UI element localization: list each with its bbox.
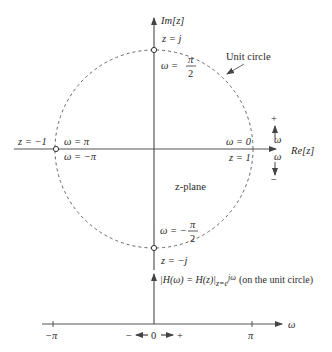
freq-direction-minus: − xyxy=(126,330,132,341)
label-omega-pi-over-2-den: 2 xyxy=(188,68,193,79)
tick-label-zero: 0 xyxy=(151,330,156,341)
label-omega-pi-over-2-prefix: ω = xyxy=(161,60,178,71)
tick-label-minus-pi: −π xyxy=(45,330,58,341)
direction-omega-down: ω xyxy=(274,151,281,162)
z-plane-diagram: Im[z] Re[z] z = j ω = π 2 Unit circle z … xyxy=(0,0,332,352)
direction-minus: − xyxy=(271,174,277,185)
label-omega-minus-pi: ω = −π xyxy=(64,151,97,162)
mapping-formula: |H(ω) = H(z)|z=ejω(on the unit circle) xyxy=(160,273,313,288)
point-z-minus-j xyxy=(151,245,156,250)
direction-omega-up: ω xyxy=(274,134,281,145)
label-omega-minus-pi-over-2-num: π xyxy=(190,219,196,230)
label-z-j: z = j xyxy=(161,33,181,44)
tick-label-pi: π xyxy=(248,330,254,341)
z-plane-label: z-plane xyxy=(175,181,206,192)
point-z-j xyxy=(151,47,156,52)
freq-direction-plus: + xyxy=(177,330,183,341)
label-z-minus-j: z = −j xyxy=(160,255,188,266)
re-axis-label: Re[z] xyxy=(290,145,314,156)
label-omega-0: ω = 0 xyxy=(226,136,252,147)
im-axis-label: Im[z] xyxy=(160,15,184,26)
unit-circle-pointer xyxy=(227,64,244,74)
label-omega-minus-pi-over-2-prefix: ω = − xyxy=(160,225,187,236)
point-z-minus-1 xyxy=(53,146,58,151)
frequency-axis-label: ω xyxy=(288,319,295,330)
label-omega-minus-pi-over-2-den: 2 xyxy=(190,233,195,244)
direction-plus: + xyxy=(271,113,277,124)
unit-circle-label: Unit circle xyxy=(226,51,271,62)
label-z-1: z = 1 xyxy=(228,152,251,163)
label-z-minus-1: z = −1 xyxy=(17,136,47,147)
label-omega-pi: ω = π xyxy=(64,136,90,147)
label-omega-pi-over-2-num: π xyxy=(188,54,194,65)
